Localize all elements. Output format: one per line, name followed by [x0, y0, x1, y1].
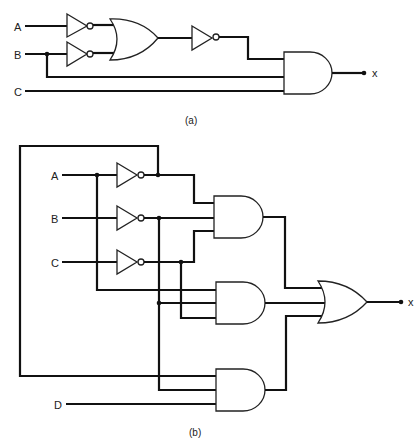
wire-a-not — [144, 175, 214, 203]
input-label-a: A — [14, 21, 22, 33]
junction-dot — [157, 216, 162, 221]
caption-a: (a) — [185, 115, 197, 126]
input-label-b: B — [14, 49, 21, 61]
wire-c-not — [144, 231, 214, 262]
or-gate-a — [110, 19, 158, 60]
junction-dot — [45, 52, 50, 57]
inverter-a — [67, 14, 93, 37]
inverter-or — [192, 26, 219, 50]
junction-dot — [156, 173, 161, 178]
input-label-a: A — [51, 170, 59, 182]
wire-inv-or-out — [219, 37, 284, 59]
wire-and3-out — [265, 316, 322, 390]
junction-dot — [157, 301, 162, 306]
junction-dot — [179, 260, 184, 265]
wire-a-tap — [97, 175, 216, 290]
circuit-b: A B C D — [20, 146, 414, 438]
input-label-c: C — [51, 257, 59, 269]
input-label-c: C — [14, 86, 22, 98]
inverter-b — [67, 42, 93, 66]
junction-dot — [95, 173, 100, 178]
and-gate-2 — [216, 282, 265, 324]
output-dot-a — [362, 71, 367, 76]
and-gate-3 — [216, 369, 265, 411]
logic-circuit-figure: A B C x — [0, 0, 420, 443]
output-label-b: x — [408, 296, 414, 308]
or-gate-b — [318, 281, 367, 323]
caption-b: (b) — [189, 427, 201, 438]
input-label-d: D — [54, 399, 62, 411]
output-label-a: x — [372, 67, 378, 79]
wire-and1-out — [263, 217, 322, 288]
and-gate-a — [284, 52, 332, 94]
circuit-a: A B C x — [14, 14, 378, 126]
inverter-b — [117, 206, 144, 230]
output-dot-b — [399, 300, 404, 305]
inverter-a — [117, 163, 144, 187]
input-label-b: B — [51, 213, 58, 225]
inverter-c — [117, 250, 144, 274]
and-gate-1 — [214, 196, 263, 238]
